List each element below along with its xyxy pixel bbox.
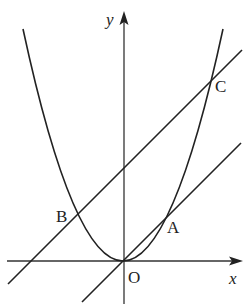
x-axis-label: x (228, 269, 237, 288)
point-label-b: B (56, 207, 67, 226)
line-OA (82, 143, 241, 302)
line-BC (8, 50, 242, 284)
y-axis-label: y (104, 10, 114, 29)
parabola-curve (23, 29, 223, 261)
diagram-canvas: y x O A B C (0, 0, 246, 304)
point-label-a: A (167, 218, 180, 237)
origin-label: O (128, 268, 140, 287)
point-label-c: C (215, 77, 226, 96)
